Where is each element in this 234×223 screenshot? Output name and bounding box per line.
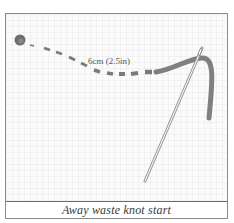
- measurement-label: 6cm (2.5in): [88, 56, 130, 66]
- canvas-fabric: 6cm (2.5in): [6, 14, 227, 201]
- illustration: [6, 14, 227, 201]
- figure-frame: 6cm (2.5in) Away waste knot start: [5, 13, 228, 219]
- figure-caption: Away waste knot start: [62, 203, 171, 218]
- knot-icon: [15, 35, 26, 46]
- caption-bar: Away waste knot start: [6, 201, 227, 218]
